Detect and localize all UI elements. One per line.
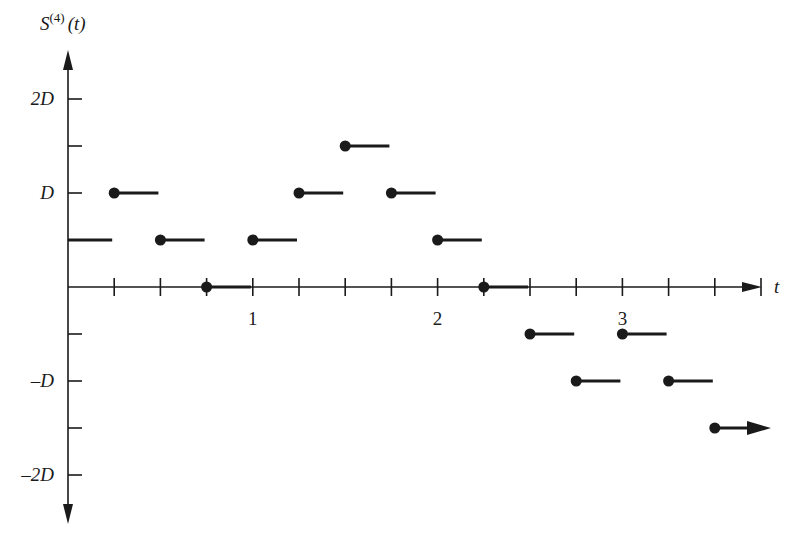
y-axis-label-sup: (4) [50,10,65,25]
closed-endpoint-dot [617,329,628,340]
closed-endpoint-dot [294,188,305,199]
x-axis-arrow-icon [742,282,762,292]
x-axis [68,282,762,292]
closed-endpoint-dot [247,235,258,246]
y-tick-label: 2D [31,88,55,109]
step-function-chart: 2DD–D–2D 123 S(4)(t) t [0,0,798,541]
closed-endpoint-dot [340,141,351,152]
x-tick-label: 2 [433,308,443,329]
y-axis-label: S(4)(t) [40,10,86,35]
y-axis-label-arg: (t) [68,13,86,35]
y-tick-label: –D [30,370,55,391]
y-axis-up-arrow-icon [63,50,73,70]
closed-endpoint-dot [571,376,582,387]
closed-endpoint-dot [201,282,212,293]
continuation-arrow-icon [747,421,771,435]
closed-endpoint-dot [478,282,489,293]
closed-endpoint-dot [109,188,120,199]
x-tick-label: 3 [618,308,628,329]
closed-endpoint-dot [155,235,166,246]
x-tick-label: 1 [248,308,258,329]
closed-endpoint-dot [709,423,720,434]
y-tick-label: –2D [20,464,54,485]
x-axis-label: t [774,276,780,297]
closed-endpoint-dot [525,329,536,340]
closed-endpoint-dot [432,235,443,246]
y-axis-label-base: S [40,13,50,34]
y-tick-label: D [39,182,54,203]
closed-endpoint-dot [663,376,674,387]
closed-endpoint-dot [386,188,397,199]
y-axis-down-arrow-icon [63,504,73,524]
